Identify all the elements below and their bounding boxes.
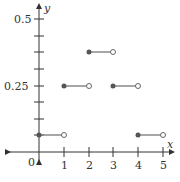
x-tick-label-5: 5 [160, 159, 167, 172]
x-tick-label-2: 2 [86, 159, 93, 172]
x-tick-label-4: 4 [135, 159, 142, 172]
closed-endpoints [37, 50, 141, 138]
x-tick-label-1: 1 [61, 159, 68, 172]
step-function-chart: 0.5 0.25 y x 0 1 2 3 4 5 [0, 0, 180, 182]
y-tick-label-0.5: 0.5 [14, 13, 32, 26]
origin-label: 0 [28, 156, 35, 169]
x-axis-label: x [167, 138, 174, 151]
open-endpoints [62, 50, 166, 138]
y-tick-label-0.25: 0.25 [4, 80, 29, 93]
x-tick-label-3: 3 [110, 159, 117, 172]
step-segments [39, 52, 163, 135]
y-axis-label: y [43, 2, 51, 15]
